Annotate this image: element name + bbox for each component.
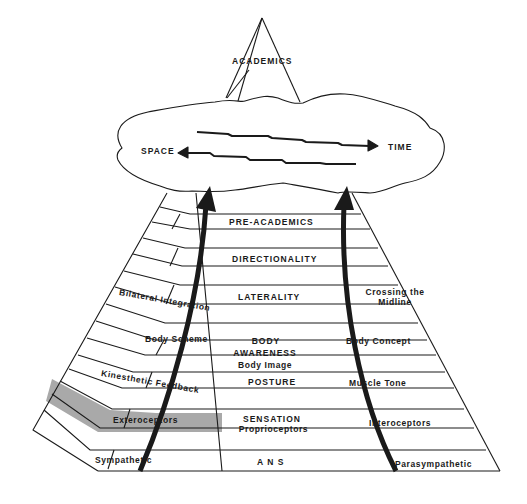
space-arrowhead — [178, 147, 188, 158]
left-label-exteroceptors: Exteroceptors — [113, 416, 178, 425]
left-label-body-scheme: Body Scheme — [145, 335, 208, 344]
center-label-directionality: DIRECTIONALITY — [232, 255, 317, 264]
body-line: BODY — [236, 337, 296, 346]
time-arrowhead — [368, 140, 378, 151]
time-arrow — [197, 132, 370, 146]
apex-label: ACADEMICS — [232, 57, 292, 66]
crossing-line: Crossing the — [350, 288, 440, 297]
right-label-body-concept: Body Concept — [346, 337, 411, 346]
center-label-body-image: Body Image — [225, 361, 305, 370]
space-label: SPACE — [141, 147, 175, 156]
center-label-sensation: SENSATION — [232, 415, 312, 424]
sensation-line: SENSATION — [232, 415, 312, 424]
center-label-awareness: AWARENESS — [225, 349, 305, 358]
right-label-midline: Midline — [350, 298, 440, 307]
center-label-posture: POSTURE — [248, 378, 296, 387]
left-label-sympathetic: Sympathetic — [95, 456, 152, 465]
center-label-pre-academics: PRE-ACADEMICS — [229, 218, 314, 227]
awareness-line: AWARENESS — [225, 349, 305, 358]
right-label-muscle-tone: Muscle Tone — [349, 379, 406, 388]
pyramid-right-edge — [352, 193, 500, 471]
midline-line: Midline — [350, 298, 440, 307]
right-label-parasympathetic: Parasympathetic — [395, 460, 472, 469]
proprioceptors-line: Proprioceptors — [226, 425, 321, 434]
center-label-body-awareness: BODY — [236, 337, 296, 346]
right-label-crossing-midline: Crossing the — [350, 288, 440, 297]
body-image-line: Body Image — [225, 361, 305, 370]
time-label: TIME — [388, 143, 412, 152]
center-label-proprioceptors: Proprioceptors — [226, 425, 321, 434]
center-label-ans: A N S — [257, 458, 284, 467]
center-label-laterality: LATERALITY — [238, 293, 300, 302]
space-arrow — [186, 153, 356, 164]
right-label-interoceptors: Interoceptors — [369, 419, 431, 428]
development-pyramid-diagram: ACADEMICS SPACE TIME PRE-ACADEMICS DIREC… — [0, 0, 527, 504]
